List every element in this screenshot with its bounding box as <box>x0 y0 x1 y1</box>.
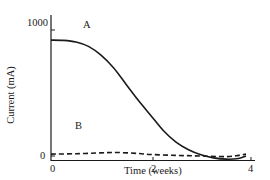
curve-label-a: A <box>83 20 91 31</box>
xtick-label-0: 0 <box>50 164 55 175</box>
ytick-label-1000: 1000 <box>27 18 48 29</box>
xtick-label-4: 4 <box>248 164 253 175</box>
series-a-line <box>51 40 246 159</box>
y-axis-title: Current (mA) <box>5 66 16 123</box>
x-axis-title: Time (weeks) <box>124 166 182 177</box>
series-b-line <box>51 152 246 156</box>
ytick-label-0: 0 <box>40 151 45 162</box>
curve-label-b: B <box>75 121 82 132</box>
